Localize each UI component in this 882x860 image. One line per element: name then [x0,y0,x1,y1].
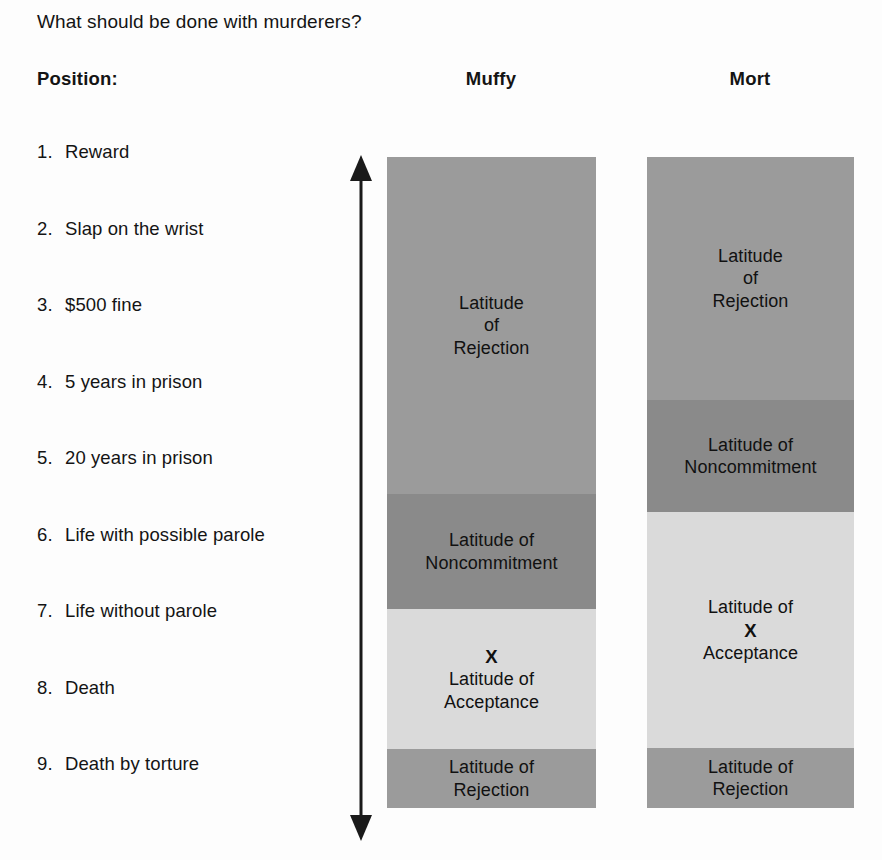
latitude-band-label-line: of [484,314,499,337]
latitude-band-label-line: Latitude [459,292,524,315]
latitude-band: Latitude ofRejection [387,749,596,808]
latitude-band-label-line: Rejection [713,290,789,313]
position-item: 7.Life without parole [37,600,367,677]
position-number: 3. [37,294,63,316]
position-label: 5 years in prison [65,371,202,393]
latitude-band-label-line: Latitude of [708,596,793,619]
position-number: 9. [37,753,63,775]
position-item: 5.20 years in prison [37,447,367,524]
position-item: 3.$500 fine [37,294,367,371]
position-number: 1. [37,141,63,163]
position-label: Life with possible parole [65,524,265,546]
position-item: 6.Life with possible parole [37,524,367,601]
latitude-band: LatitudeofRejection [647,157,854,400]
position-label: $500 fine [65,294,142,316]
position-number: 6. [37,524,63,546]
latitude-band-label-line: Latitude [718,245,783,268]
latitude-band-label-line: Latitude of [708,434,793,457]
latitude-band-label-line: Latitude of [449,668,534,691]
latitude-band-label-line: Noncommitment [425,552,557,575]
position-label: Death by torture [65,753,199,775]
latitude-band: XLatitude ofAcceptance [387,609,596,749]
latitude-band-label-line: of [743,267,758,290]
latitude-band-label-line: Noncommitment [684,456,816,479]
latitude-column-muffy: LatitudeofRejectionLatitude ofNoncommitm… [387,157,596,808]
position-item: 4.5 years in prison [37,371,367,448]
position-number: 4. [37,371,63,393]
position-label: Reward [65,141,129,163]
diagram-page: What should be done with murderers? Posi… [0,0,882,860]
vertical-double-arrow-icon [348,155,374,841]
latitude-band-label-line: Latitude of [449,529,534,552]
latitude-band-label-line: Rejection [713,778,789,801]
position-label: Death [65,677,115,699]
position-marker-x: X [485,645,497,668]
latitude-band-label-line: Acceptance [703,642,798,665]
latitude-band: Latitude ofNoncommitment [647,400,854,512]
latitude-band: LatitudeofRejection [387,157,596,494]
latitude-band: Latitude ofXAcceptance [647,512,854,748]
latitude-band-label-line: Latitude of [449,756,534,779]
position-label: Life without parole [65,600,217,622]
position-label: 20 years in prison [65,447,213,469]
column-header-mort: Mort [647,68,853,90]
position-item: 1.Reward [37,141,367,218]
position-item: 9.Death by torture [37,753,367,830]
position-number: 2. [37,218,63,240]
latitude-column-mort: LatitudeofRejectionLatitude ofNoncommitm… [647,157,854,808]
column-header-muffy: Muffy [387,68,595,90]
position-marker-x: X [744,619,756,642]
position-number: 5. [37,447,63,469]
latitude-band-label-line: Latitude of [708,756,793,779]
position-number: 7. [37,600,63,622]
latitude-band: Latitude ofRejection [647,748,854,808]
latitude-band-label-line: Rejection [454,337,530,360]
latitude-band-label-line: Acceptance [444,691,539,714]
latitude-band: Latitude ofNoncommitment [387,494,596,609]
position-list: 1.Reward2.Slap on the wrist3.$500 fine4.… [37,141,367,830]
position-item: 8.Death [37,677,367,754]
position-label: Slap on the wrist [65,218,203,240]
position-column-header: Position: [37,68,118,90]
position-number: 8. [37,677,63,699]
position-item: 2.Slap on the wrist [37,218,367,295]
latitude-band-label-line: Rejection [454,779,530,802]
question-title: What should be done with murderers? [37,11,362,33]
